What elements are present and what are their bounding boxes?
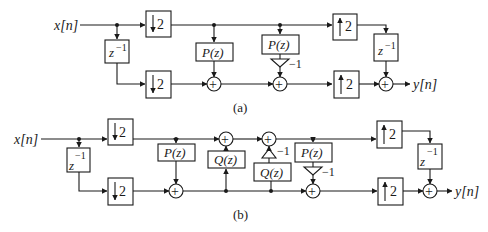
svg-text:+: + xyxy=(221,132,229,147)
gain-triangle-icon xyxy=(271,59,289,67)
diagram-a: x[n] z −1 2 2 P(z) + P(z) xyxy=(53,11,437,115)
svg-text:P(z): P(z) xyxy=(300,145,323,160)
input-label-b: x[n] xyxy=(13,132,38,147)
svg-text:z: z xyxy=(419,154,425,169)
svg-text:−1: −1 xyxy=(116,42,127,53)
svg-text:2: 2 xyxy=(345,19,352,34)
svg-text:2: 2 xyxy=(119,184,126,199)
svg-text:P(z): P(z) xyxy=(267,37,290,52)
caption-b: (b) xyxy=(233,207,248,222)
diagram-b: x[n] −1 z 2 2 P(z) + Q(z) xyxy=(13,119,479,222)
svg-text:−1: −1 xyxy=(289,57,302,71)
svg-text:+: + xyxy=(171,184,179,199)
gain-triangle-icon xyxy=(262,149,276,158)
svg-text:2: 2 xyxy=(346,77,353,92)
svg-text:+: + xyxy=(425,184,433,199)
lifting-scheme-diagram: x[n] z −1 2 2 P(z) + P(z) xyxy=(0,0,488,232)
svg-text:z: z xyxy=(108,45,114,60)
svg-text:−1: −1 xyxy=(322,165,335,179)
svg-text:+: + xyxy=(275,77,283,92)
svg-text:2: 2 xyxy=(389,127,396,142)
svg-text:2: 2 xyxy=(157,77,164,92)
svg-text:z: z xyxy=(377,43,383,58)
svg-text:−1: −1 xyxy=(277,144,290,158)
svg-text:+: + xyxy=(209,77,217,92)
svg-text:+: + xyxy=(308,184,316,199)
svg-text:Q(z): Q(z) xyxy=(214,152,237,167)
svg-text:Q(z): Q(z) xyxy=(260,165,283,180)
svg-text:2: 2 xyxy=(119,125,126,140)
svg-text:2: 2 xyxy=(390,184,397,199)
output-label-a: y[n] xyxy=(411,77,437,92)
input-label-a: x[n] xyxy=(53,18,78,33)
output-label-b: y[n] xyxy=(453,184,479,199)
svg-text:−1: −1 xyxy=(385,40,396,51)
svg-text:+: + xyxy=(381,77,389,92)
svg-text:+: + xyxy=(264,132,272,147)
svg-text:−1: −1 xyxy=(75,150,86,161)
gain-triangle-icon xyxy=(304,167,322,175)
svg-text:P(z): P(z) xyxy=(163,145,186,160)
svg-text:z: z xyxy=(68,158,74,173)
svg-text:P(z): P(z) xyxy=(201,45,224,60)
caption-a: (a) xyxy=(233,100,247,115)
svg-text:2: 2 xyxy=(157,17,164,32)
svg-text:−1: −1 xyxy=(427,146,438,157)
